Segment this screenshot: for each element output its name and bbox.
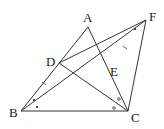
label-E: E — [110, 64, 118, 79]
label-F: F — [149, 9, 156, 24]
segment-CF — [128, 20, 146, 111]
angle-circle-DCA — [118, 98, 121, 101]
angle-circle-DCB — [113, 107, 116, 110]
label-C: C — [131, 110, 140, 125]
angle-dot-DFB — [134, 28, 136, 30]
angle-dot-FBC — [36, 106, 38, 108]
angle-dot-ABF — [33, 99, 35, 101]
label-D: D — [46, 54, 55, 69]
tick-mark-EF — [123, 46, 127, 49]
segment-AC — [88, 27, 128, 111]
segment-BF — [21, 20, 146, 111]
label-A: A — [83, 10, 93, 25]
geometry-diagram: A B C D E F — [0, 0, 164, 129]
label-B: B — [9, 105, 18, 120]
